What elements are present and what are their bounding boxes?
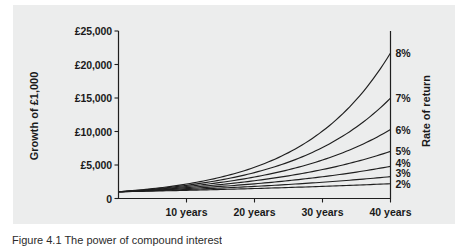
y-axis-tick-label: £20,000: [40, 59, 112, 71]
series-line-8pct: [119, 53, 391, 192]
series-end-label-5pct: 5%: [396, 145, 411, 157]
series-end-label-8pct: 8%: [396, 47, 411, 59]
x-axis-tick-label: 40 years: [356, 206, 426, 218]
y-axis-title: Growth of £1,000: [28, 56, 40, 176]
axes-group: [115, 31, 391, 203]
series-end-label-2pct: 2%: [396, 178, 411, 190]
y-axis-tick-label: £10,000: [40, 126, 112, 138]
y-axis-tick-label: £25,000: [40, 25, 112, 37]
figure-container: Growth of £1,000 Rate of return 0£5,000£…: [0, 0, 468, 248]
series-end-label-7pct: 7%: [396, 92, 411, 104]
y-axis-tick-label: 0: [40, 193, 112, 205]
y-axis-tick-label: £15,000: [40, 92, 112, 104]
right-axis-title: Rate of return: [420, 51, 432, 171]
series-line-6pct: [119, 130, 391, 192]
y-axis-tick-label: £5,000: [40, 159, 112, 171]
x-axis-tick-label: 30 years: [288, 206, 358, 218]
series-end-label-6pct: 6%: [396, 124, 411, 136]
x-axis-tick-label: 10 years: [152, 206, 222, 218]
figure-caption: Figure 4.1 The power of compound interes…: [12, 234, 222, 248]
x-axis-tick-label: 20 years: [220, 206, 290, 218]
series-curves-group: [119, 53, 391, 192]
series-line-7pct: [119, 98, 391, 192]
